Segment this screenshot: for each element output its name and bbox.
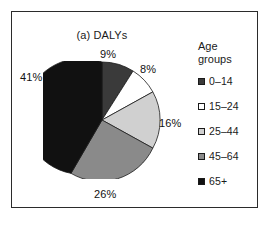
slice-label-8: 8% xyxy=(140,63,156,75)
legend-swatch-icon-15-24 xyxy=(198,103,205,110)
figure-panel: (a) DALYs 9% 8% 16% 26% 41% Agegroups 0–… xyxy=(11,11,258,208)
legend-swatch-icon-0-14 xyxy=(198,78,205,85)
legend-label-65-plus: 65+ xyxy=(209,175,227,187)
legend-swatch-icon-45-64 xyxy=(198,153,205,160)
legend-label-0-14: 0–14 xyxy=(209,75,233,87)
legend: Agegroups 0–14 15–24 25–44 45–64 65+ xyxy=(192,12,258,208)
legend-title-line1: Age xyxy=(198,40,218,52)
legend-swatch-icon-65-plus xyxy=(198,178,205,185)
legend-label-15-24: 15–24 xyxy=(209,100,239,112)
legend-item-15-24[interactable]: 15–24 xyxy=(198,100,239,112)
legend-item-0-14[interactable]: 0–14 xyxy=(198,75,233,87)
pie-chart: 9% 8% 16% 26% 41% xyxy=(12,12,192,208)
legend-swatch-icon-25-44 xyxy=(198,128,205,135)
legend-item-25-44[interactable]: 25–44 xyxy=(198,125,239,137)
legend-item-45-64[interactable]: 45–64 xyxy=(198,150,239,162)
legend-item-65-plus[interactable]: 65+ xyxy=(198,175,227,187)
legend-title-line2: groups xyxy=(198,53,232,65)
legend-label-25-44: 25–44 xyxy=(209,125,239,137)
slice-label-9: 9% xyxy=(100,48,116,60)
slice-label-41: 41% xyxy=(20,71,42,83)
legend-title: Agegroups xyxy=(198,40,232,65)
legend-label-45-64: 45–64 xyxy=(209,150,239,162)
slice-label-16: 16% xyxy=(159,117,181,129)
slice-label-26: 26% xyxy=(94,188,116,200)
pie-svg xyxy=(43,61,161,179)
